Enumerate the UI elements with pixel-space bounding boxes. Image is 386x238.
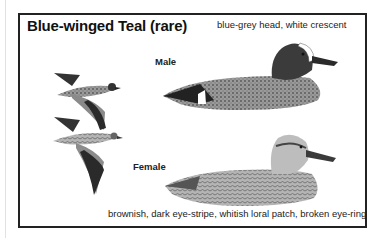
- bird-illustrations: [0, 0, 386, 238]
- swimming-male-illustration: [163, 43, 338, 110]
- flying-female-illustration: [53, 117, 123, 195]
- swimming-female-illustration: [165, 135, 336, 206]
